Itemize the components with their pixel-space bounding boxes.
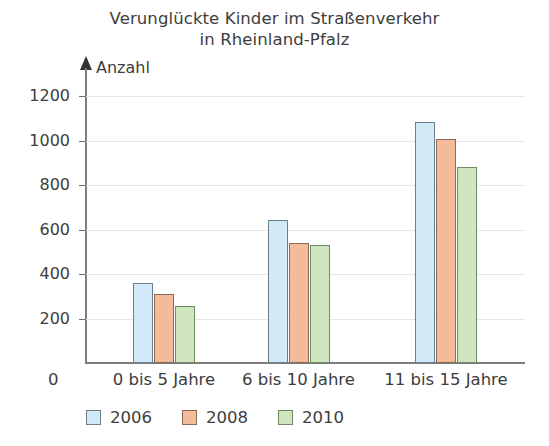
- legend-item[interactable]: 2006: [86, 408, 152, 427]
- legend: 200620082010: [86, 408, 374, 427]
- y-axis-tick-label: 800: [8, 175, 70, 194]
- legend-label: 2006: [110, 408, 152, 427]
- legend-swatch: [278, 410, 293, 425]
- bar: [175, 306, 195, 363]
- gridline: [86, 141, 525, 142]
- legend-item[interactable]: 2008: [182, 408, 248, 427]
- y-axis-tick-label: 400: [8, 264, 70, 283]
- y-axis-tick-label: 1000: [8, 131, 70, 150]
- bar: [310, 245, 330, 363]
- legend-label: 2010: [302, 408, 344, 427]
- chart-title-line-2: in Rheinland-Pfalz: [0, 29, 549, 50]
- bar: [268, 220, 288, 364]
- bar: [457, 167, 477, 363]
- legend-label: 2008: [206, 408, 248, 427]
- bar: [154, 294, 174, 363]
- bar: [133, 283, 153, 363]
- bar: [289, 243, 309, 363]
- bar: [415, 122, 435, 363]
- plot-area: [86, 90, 525, 363]
- y-axis-label: Anzahl: [96, 58, 150, 77]
- legend-item[interactable]: 2010: [278, 408, 344, 427]
- y-axis-tick-label: 1200: [8, 86, 70, 105]
- y-axis-tick-label: 600: [8, 220, 70, 239]
- y-axis-tick-label: 200: [8, 309, 70, 328]
- bar-chart: Verunglückte Kinder im Straßenverkehr in…: [0, 0, 549, 446]
- gridline: [86, 96, 525, 97]
- x-axis-category-label: 11 bis 15 Jahre: [356, 370, 536, 389]
- chart-title: Verunglückte Kinder im Straßenverkehr in…: [0, 8, 549, 50]
- legend-swatch: [182, 410, 197, 425]
- chart-title-line-1: Verunglückte Kinder im Straßenverkehr: [110, 9, 440, 28]
- bar: [436, 139, 456, 363]
- legend-swatch: [86, 410, 101, 425]
- origin-label: 0: [48, 370, 59, 389]
